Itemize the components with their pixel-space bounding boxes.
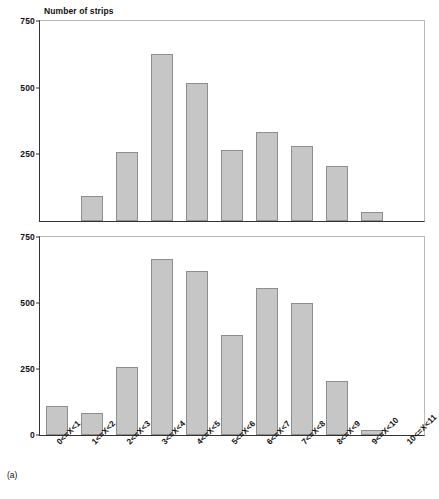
bar [361, 212, 383, 221]
bar-slot [75, 21, 110, 221]
bar [221, 150, 243, 221]
bar-slot [249, 21, 284, 221]
y-tick-mark [36, 87, 40, 88]
x-tick-slot: 10<=X<11 [390, 440, 425, 498]
bar-slot [354, 21, 389, 221]
y-tick-label: 750 [20, 232, 35, 242]
y-tick-mark [36, 154, 40, 155]
bar-slot [75, 237, 110, 435]
y-tick-mark [36, 302, 40, 303]
bar [326, 166, 348, 221]
bar-slot [40, 237, 75, 435]
x-axis-labels: 0<=X<11<=X<22<=X<33<=X<44<=X<55<=X<66<=X… [39, 440, 425, 498]
bar [256, 132, 278, 221]
x-tick-slot: 7<=X<8 [285, 440, 320, 498]
x-tick-slot: 3<=X<4 [144, 440, 179, 498]
bar [116, 152, 138, 221]
bar-slot [319, 21, 354, 221]
bar [81, 196, 103, 221]
y-tick-mark [36, 21, 40, 22]
bar-slot [145, 237, 180, 435]
bar [256, 288, 278, 435]
y-tick-label: 250 [20, 364, 35, 374]
x-tick-slot: 4<=X<5 [179, 440, 214, 498]
x-tick-slot: 0<=X<1 [39, 440, 74, 498]
bar-series-bottom [40, 237, 424, 435]
bar-slot [249, 237, 284, 435]
y-tick-mark [36, 368, 40, 369]
bar-slot [354, 237, 389, 435]
bar-slot [40, 21, 75, 221]
bar [186, 83, 208, 221]
y-tick-label: 500 [20, 298, 35, 308]
plot-area-bottom: 7505002500 [39, 236, 425, 436]
panel-caption: (a) [7, 470, 17, 480]
panel-bottom: 7505002500 [0, 234, 429, 438]
bar-slot [389, 237, 424, 435]
axis-title: Number of strips [44, 6, 114, 16]
bar-slot [180, 237, 215, 435]
bar-slot [145, 21, 180, 221]
x-tick-slot: 6<=X<7 [250, 440, 285, 498]
bar [291, 303, 313, 435]
bar [221, 335, 243, 435]
x-tick-slot: 1<=X<2 [74, 440, 109, 498]
panel-top: Number of strips 750500250 [0, 6, 429, 228]
plot-area-top: 750500250 [39, 20, 425, 222]
bar [186, 271, 208, 435]
bar-slot [284, 21, 319, 221]
bar-slot [284, 237, 319, 435]
x-tick-slot: 5<=X<6 [214, 440, 249, 498]
bar-slot [215, 21, 250, 221]
x-tick-slot: 9<=X<10 [355, 440, 390, 498]
x-tick-slot: 2<=X<3 [109, 440, 144, 498]
bar-slot [389, 21, 424, 221]
bar-slot [110, 21, 145, 221]
bar-slot [180, 21, 215, 221]
bar-slot [319, 237, 354, 435]
y-tick-mark [36, 237, 40, 238]
bar [151, 259, 173, 435]
bar-slot [110, 237, 145, 435]
bar [116, 367, 138, 435]
bar-slot [215, 237, 250, 435]
x-tick-slot: 8<=X<9 [320, 440, 355, 498]
y-tick-label: 750 [20, 16, 35, 26]
y-tick-mark [36, 435, 40, 436]
bar [291, 146, 313, 221]
bar-series-top [40, 21, 424, 221]
y-tick-label: 500 [20, 83, 35, 93]
bar [151, 54, 173, 221]
y-tick-label: 250 [20, 149, 35, 159]
bar [326, 381, 348, 435]
y-tick-label: 0 [30, 430, 35, 440]
